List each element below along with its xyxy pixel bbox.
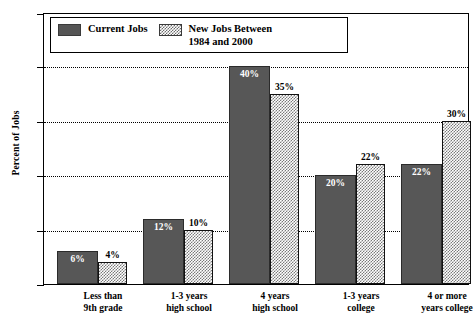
bar-newjobs-1[interactable]: 4% — [98, 262, 127, 284]
x-label-4-or-more-years-college: 4 or more years college — [385, 291, 475, 314]
bar-value-label: 22% — [412, 167, 431, 178]
y-axis-title: Percent of Jobs — [11, 83, 21, 203]
plot-area: 6% 4% 12% 10% 40% — [43, 13, 469, 285]
y-tick-30 — [37, 122, 44, 123]
bar-current-4[interactable]: 20% — [315, 175, 356, 284]
legend-swatch-solid-icon — [58, 24, 81, 36]
bar-group-1-3-years-high-school: 12% 10% — [143, 219, 213, 284]
y-tick-10 — [37, 231, 44, 232]
bar-group-1-3-years-college: 20% 22% — [315, 164, 385, 284]
legend-swatch-stipple-icon — [159, 24, 182, 36]
bar-value-label: 40% — [240, 69, 259, 80]
bar-current-1[interactable]: 6% — [57, 251, 98, 284]
y-tick-0 — [37, 285, 44, 286]
bar-value-label: 6% — [70, 254, 84, 265]
bar-value-label: 4% — [105, 250, 119, 261]
bar-value-label: 10% — [189, 218, 208, 229]
bar-newjobs-4[interactable]: 22% — [356, 164, 385, 284]
bar-group-4-years-high-school: 40% 35% — [229, 66, 299, 284]
bar-value-label: 12% — [154, 222, 173, 233]
bar-group-less-than-9th-grade: 6% 4% — [57, 251, 127, 284]
bar-newjobs-2[interactable]: 10% — [184, 230, 213, 284]
bar-value-label: 30% — [447, 109, 466, 120]
bar-value-label: 20% — [326, 178, 345, 189]
bar-value-label: 22% — [361, 152, 380, 163]
legend-entry-current-jobs[interactable]: Current Jobs — [58, 23, 148, 36]
bar-chart: Percent of Jobs 0 10 20 30 40 50 6% — [0, 0, 475, 325]
bar-group-4-or-more-years-college: 22% 30% — [401, 121, 471, 284]
y-tick-20 — [37, 176, 44, 177]
bar-newjobs-3[interactable]: 35% — [270, 94, 299, 284]
legend-label-current-jobs: Current Jobs — [88, 23, 148, 36]
y-tick-40 — [37, 67, 44, 68]
bar-current-2[interactable]: 12% — [143, 219, 184, 284]
y-tick-50 — [37, 14, 44, 15]
legend-entry-new-jobs[interactable]: New Jobs Between 1984 and 2000 — [159, 23, 272, 48]
bar-value-label: 35% — [275, 82, 294, 93]
bar-current-5[interactable]: 22% — [401, 164, 442, 284]
legend: Current Jobs New Jobs Between 1984 and 2… — [50, 17, 348, 53]
legend-label-new-jobs: New Jobs Between 1984 and 2000 — [189, 23, 272, 48]
bar-current-3[interactable]: 40% — [229, 66, 270, 284]
bar-newjobs-5[interactable]: 30% — [442, 121, 471, 284]
